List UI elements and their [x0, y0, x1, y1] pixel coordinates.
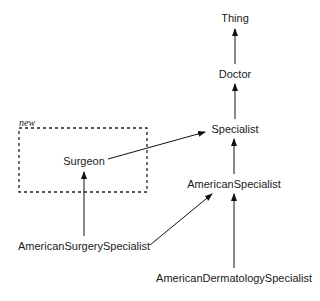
node-american-dermatology-specialist: AmericanDermatologySpecialist	[156, 273, 312, 284]
node-american-specialist: AmericanSpecialist	[187, 179, 281, 190]
node-american-surgery-specialist: AmericanSurgerySpecialist	[18, 241, 150, 252]
edge-surgery-americanspecialist	[150, 194, 212, 245]
node-specialist: Specialist	[211, 124, 258, 135]
new-group-label: new	[19, 117, 35, 128]
node-doctor: Doctor	[219, 69, 251, 80]
edge-surgeon-specialist	[108, 132, 205, 159]
node-surgeon: Surgeon	[63, 156, 105, 167]
diagram-canvas	[0, 0, 320, 301]
node-thing: Thing	[221, 13, 249, 24]
